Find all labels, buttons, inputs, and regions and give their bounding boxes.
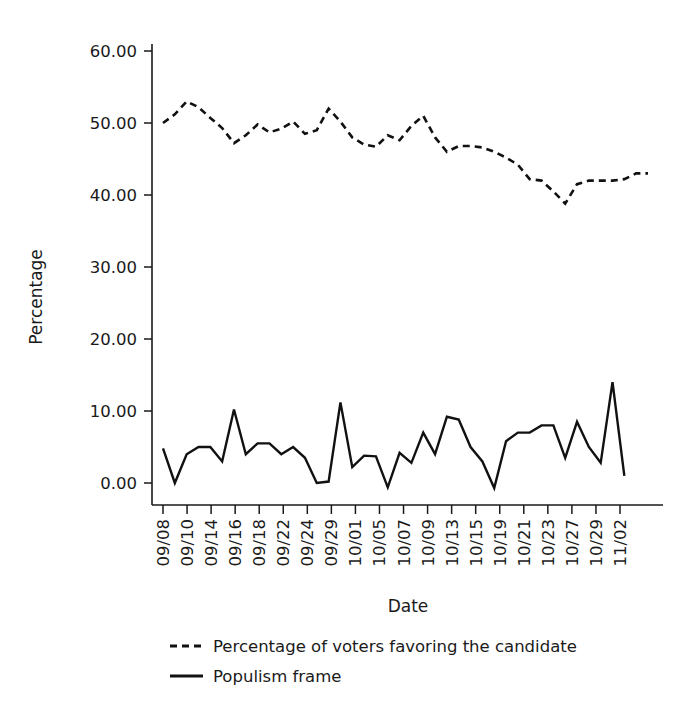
chart-canvas: 0.0010.0020.0030.0040.0050.0060.00 09/08… <box>0 0 695 706</box>
x-axis-tick-label: 10/27 <box>563 519 582 567</box>
x-axis-tick-label: 09/22 <box>274 519 293 567</box>
y-axis-tick-label: 20.00 <box>90 330 137 349</box>
x-axis-tick-label: 11/02 <box>611 519 630 567</box>
x-axis-tick-label: 09/16 <box>226 519 245 567</box>
series-line-percentage-of-voters <box>163 101 648 203</box>
x-axis-tick-label: 10/23 <box>539 519 558 567</box>
x-axis-tick-label: 10/21 <box>515 519 534 567</box>
x-axis-tick-label: 09/14 <box>202 519 221 567</box>
y-axis-tick-label: 50.00 <box>90 114 137 133</box>
chart-figure: 0.0010.0020.0030.0040.0050.0060.00 09/08… <box>0 0 695 706</box>
chart-legend: Percentage of voters favoring the candid… <box>170 637 577 686</box>
x-axis-tick-label: 10/13 <box>443 519 462 567</box>
legend-label-populism-frame: Populism frame <box>213 667 341 686</box>
series-line-populism-frame <box>163 382 624 488</box>
x-axis-tick-label: 10/15 <box>467 519 486 567</box>
y-axis-tick-label: 10.00 <box>90 402 137 421</box>
y-axis-tick-label: 60.00 <box>90 42 137 61</box>
x-axis-title: Date <box>388 596 429 616</box>
y-axis-tick-label: 30.00 <box>90 258 137 277</box>
x-axis-tick-label: 10/01 <box>346 519 365 567</box>
x-axis-tick-label: 10/09 <box>419 519 438 567</box>
x-axis-tick-label: 09/29 <box>322 519 341 567</box>
y-axis-tick-labels: 0.0010.0020.0030.0040.0050.0060.00 <box>90 42 137 493</box>
x-axis-tick-label: 09/08 <box>154 519 173 567</box>
y-axis-tick-label: 40.00 <box>90 186 137 205</box>
x-axis-tick-label: 09/18 <box>250 519 269 567</box>
x-axis-tick-label: 09/10 <box>178 519 197 567</box>
y-axis-title: Percentage <box>26 249 46 345</box>
x-axis-tick-label: 10/19 <box>491 519 510 567</box>
y-axis-ticks <box>144 51 152 483</box>
x-axis-tick-label: 10/29 <box>587 519 606 567</box>
y-axis-tick-label: 0.00 <box>100 474 137 493</box>
x-axis-ticks <box>163 505 620 514</box>
x-axis-tick-label: 10/07 <box>395 519 414 567</box>
legend-label-percentage-of-voters: Percentage of voters favoring the candid… <box>213 637 577 656</box>
x-axis-tick-label: 10/05 <box>370 519 389 567</box>
x-axis-tick-label: 09/24 <box>298 519 317 567</box>
x-axis-tick-labels: 09/0809/1009/1409/1609/1809/2209/2409/29… <box>154 519 630 567</box>
